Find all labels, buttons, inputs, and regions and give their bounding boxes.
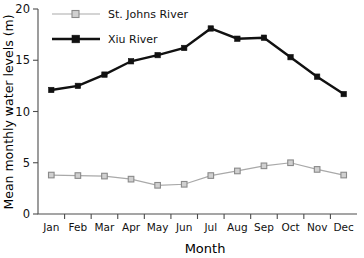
x-tick-label: Jul	[203, 221, 217, 233]
x-tick-label: Jan	[42, 221, 59, 233]
y-tick-label: 10	[15, 105, 30, 119]
x-tick-marks	[65, 214, 331, 219]
chart-container: 05101520 JanFebMarAprMayJunJulAugSepOctN…	[0, 0, 364, 258]
data-point-st-johns-river	[48, 172, 54, 178]
data-point-xiu-river	[49, 87, 54, 92]
x-tick-label: Dec	[334, 221, 355, 233]
y-tick-label: 20	[15, 2, 30, 16]
data-point-xiu-river	[235, 36, 240, 41]
data-point-st-johns-river	[261, 163, 267, 169]
data-point-st-johns-river	[75, 173, 81, 179]
data-point-st-johns-river	[128, 176, 134, 182]
chart-legend: St. Johns River Xiu River	[52, 8, 188, 46]
data-point-st-johns-river	[208, 173, 214, 179]
legend-marker-xiu-river	[72, 35, 80, 43]
y-tick-label: 15	[15, 53, 30, 67]
data-point-xiu-river	[208, 26, 213, 31]
x-tick-label: May	[147, 221, 169, 233]
data-point-st-johns-river	[341, 172, 347, 178]
series-st-johns-river	[48, 160, 346, 188]
data-point-xiu-river	[341, 91, 346, 96]
data-point-xiu-river	[155, 52, 160, 57]
data-point-xiu-river	[128, 59, 133, 64]
y-axis-tick-labels: 05101520	[15, 2, 30, 221]
data-point-xiu-river	[102, 72, 107, 77]
data-point-st-johns-river	[235, 168, 241, 174]
x-tick-label: Sep	[254, 221, 274, 233]
y-tick-label: 0	[23, 207, 30, 221]
x-tick-label: Apr	[122, 221, 141, 233]
x-tick-label: Oct	[281, 221, 299, 233]
legend-label-st-johns-river: St. Johns River	[108, 8, 188, 21]
data-point-xiu-river	[75, 83, 80, 88]
x-axis-title: Month	[185, 241, 226, 256]
series-xiu-river	[49, 26, 347, 97]
x-tick-label: Jun	[175, 221, 192, 233]
x-tick-label: Nov	[307, 221, 328, 233]
x-tick-label: Feb	[69, 221, 88, 233]
data-point-st-johns-river	[102, 173, 108, 179]
x-tick-label: Aug	[227, 221, 248, 233]
series-line-st-johns-river	[51, 163, 343, 186]
y-axis-title: Mean monthly water levels (m)	[1, 14, 16, 209]
data-point-st-johns-river	[155, 183, 161, 189]
line-chart: 05101520 JanFebMarAprMayJunJulAugSepOctN…	[0, 0, 364, 258]
data-point-xiu-river	[182, 45, 187, 50]
y-tick-marks	[33, 9, 38, 214]
chart-series	[48, 26, 346, 188]
data-point-st-johns-river	[314, 167, 320, 173]
y-tick-label: 5	[23, 156, 30, 170]
legend-label-xiu-river: Xiu River	[108, 33, 158, 46]
x-axis-tick-labels: JanFebMarAprMayJunJulAugSepOctNovDec	[42, 221, 354, 233]
data-point-st-johns-river	[181, 181, 187, 187]
data-point-xiu-river	[314, 74, 319, 79]
legend-marker-st-johns-river	[72, 11, 79, 18]
x-tick-label: Mar	[95, 221, 115, 233]
data-point-xiu-river	[288, 54, 293, 59]
data-point-st-johns-river	[288, 160, 294, 166]
data-point-xiu-river	[261, 35, 266, 40]
